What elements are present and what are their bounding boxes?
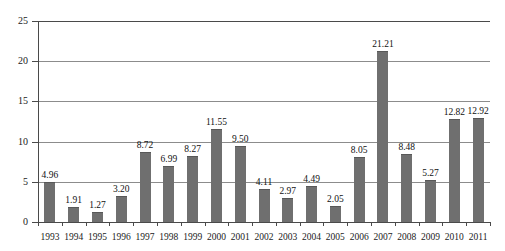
x-tick-mark-10	[276, 222, 277, 226]
y-tick-label: 10	[8, 137, 28, 147]
x-tick-mark-13	[347, 222, 348, 226]
value-label-2003: 2.97	[271, 186, 305, 196]
value-label-1999: 8.27	[176, 144, 210, 154]
x-tick-mark-7	[205, 222, 206, 226]
y-tick-label: 0	[8, 217, 28, 227]
x-tick-mark-14	[371, 222, 372, 226]
bar-1994	[68, 207, 79, 222]
x-tick-mark-6	[181, 222, 182, 226]
y-tick-label: 15	[8, 96, 28, 106]
x-tick-mark-12	[323, 222, 324, 226]
value-label-2011: 12.92	[461, 106, 495, 116]
value-label-1995: 1.27	[80, 200, 114, 210]
bar-2009	[425, 180, 436, 222]
bar-2011	[473, 118, 484, 222]
x-tick-mark-1	[62, 222, 63, 226]
x-tick-mark-9	[252, 222, 253, 226]
bar-2004	[306, 186, 317, 222]
x-tick-mark-4	[133, 222, 134, 226]
gridline-15	[38, 101, 490, 102]
x-tick-mark-0	[38, 222, 39, 226]
y-tick-label: 25	[8, 16, 28, 26]
x-tick-mark-3	[109, 222, 110, 226]
bar-1993	[44, 182, 55, 222]
bar-2002	[259, 189, 270, 222]
y-tick-label: 20	[8, 56, 28, 66]
x-axis-line	[38, 222, 491, 223]
bar-1997	[140, 152, 151, 222]
value-label-2004: 4.49	[295, 174, 329, 184]
y-tick-label: 5	[8, 177, 28, 187]
bar-1995	[92, 212, 103, 222]
y-tick-mark-25	[32, 21, 38, 22]
bar-chart: 0510152025 19931994199519961997199819992…	[0, 0, 505, 251]
x-tick-mark-11	[300, 222, 301, 226]
value-label-1997: 8.72	[128, 140, 162, 150]
x-tick-mark-15	[395, 222, 396, 226]
bar-2001	[235, 146, 246, 222]
value-label-2001: 9.50	[223, 134, 257, 144]
value-label-2006: 8.05	[342, 145, 376, 155]
y-tick-mark-15	[32, 101, 38, 102]
x-tick-mark-5	[157, 222, 158, 226]
bar-1998	[163, 166, 174, 222]
bar-2010	[449, 119, 460, 222]
bar-2006	[354, 157, 365, 222]
y-tick-mark-10	[32, 142, 38, 143]
bar-2008	[401, 154, 412, 222]
bar-2007	[377, 51, 388, 222]
x-tick-mark-8	[228, 222, 229, 226]
value-label-1993: 4.96	[33, 170, 67, 180]
value-label-2005: 2.05	[318, 194, 352, 204]
y-tick-mark-5	[32, 182, 38, 183]
value-label-1996: 3.20	[104, 184, 138, 194]
value-label-2000: 11.55	[199, 117, 233, 127]
y-axis-line	[38, 21, 39, 223]
bar-1999	[187, 156, 198, 222]
bar-1996	[116, 196, 127, 222]
x-tick-mark-18	[466, 222, 467, 226]
bar-2000	[211, 129, 222, 222]
value-label-2009: 5.27	[414, 168, 448, 178]
value-label-2008: 8.48	[390, 142, 424, 152]
value-label-2007: 21.21	[366, 39, 400, 49]
value-label-1998: 6.99	[152, 154, 186, 164]
x-tick-label-2011: 2011	[463, 232, 493, 243]
gridline-25	[38, 21, 490, 22]
bar-2003	[282, 198, 293, 222]
x-tick-mark-17	[442, 222, 443, 226]
gridline-20	[38, 61, 490, 62]
x-tick-mark-end	[490, 222, 491, 226]
bar-2005	[330, 206, 341, 222]
x-tick-mark-2	[86, 222, 87, 226]
x-tick-mark-16	[419, 222, 420, 226]
y-tick-mark-20	[32, 61, 38, 62]
